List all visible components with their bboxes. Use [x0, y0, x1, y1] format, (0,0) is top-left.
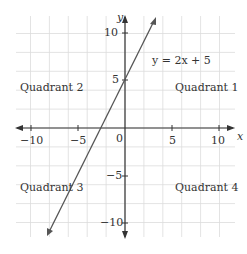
quadrant-2-label: Quadrant 2: [20, 82, 84, 93]
y-axis-label: y: [117, 12, 123, 23]
x-tick-5: 5: [169, 135, 176, 146]
x-tick-neg5: −5: [70, 135, 86, 146]
x-tick-0: 0: [116, 133, 123, 144]
x-tick-10: 10: [211, 135, 225, 146]
quadrant-3-label: Quadrant 3: [20, 182, 84, 193]
y-tick-5: 5: [112, 74, 119, 85]
x-axis-label: x: [237, 131, 243, 142]
quadrant-4-label: Quadrant 4: [175, 182, 239, 193]
quadrant-1-label: Quadrant 1: [175, 82, 239, 93]
coordinate-plane: [0, 0, 247, 254]
y-tick-neg5: −5: [106, 170, 122, 181]
equation-label: y = 2x + 5: [152, 55, 211, 66]
x-tick-neg10: −10: [20, 135, 43, 146]
line-top-arrow-icon: [150, 17, 156, 25]
x-axis-right-arrow-icon: [227, 125, 235, 131]
y-tick-10: 10: [104, 27, 118, 38]
x-axis-left-arrow-icon: [15, 125, 23, 131]
y-tick-neg10: −10: [100, 217, 123, 228]
y-axis-down-arrow-icon: [122, 231, 128, 239]
